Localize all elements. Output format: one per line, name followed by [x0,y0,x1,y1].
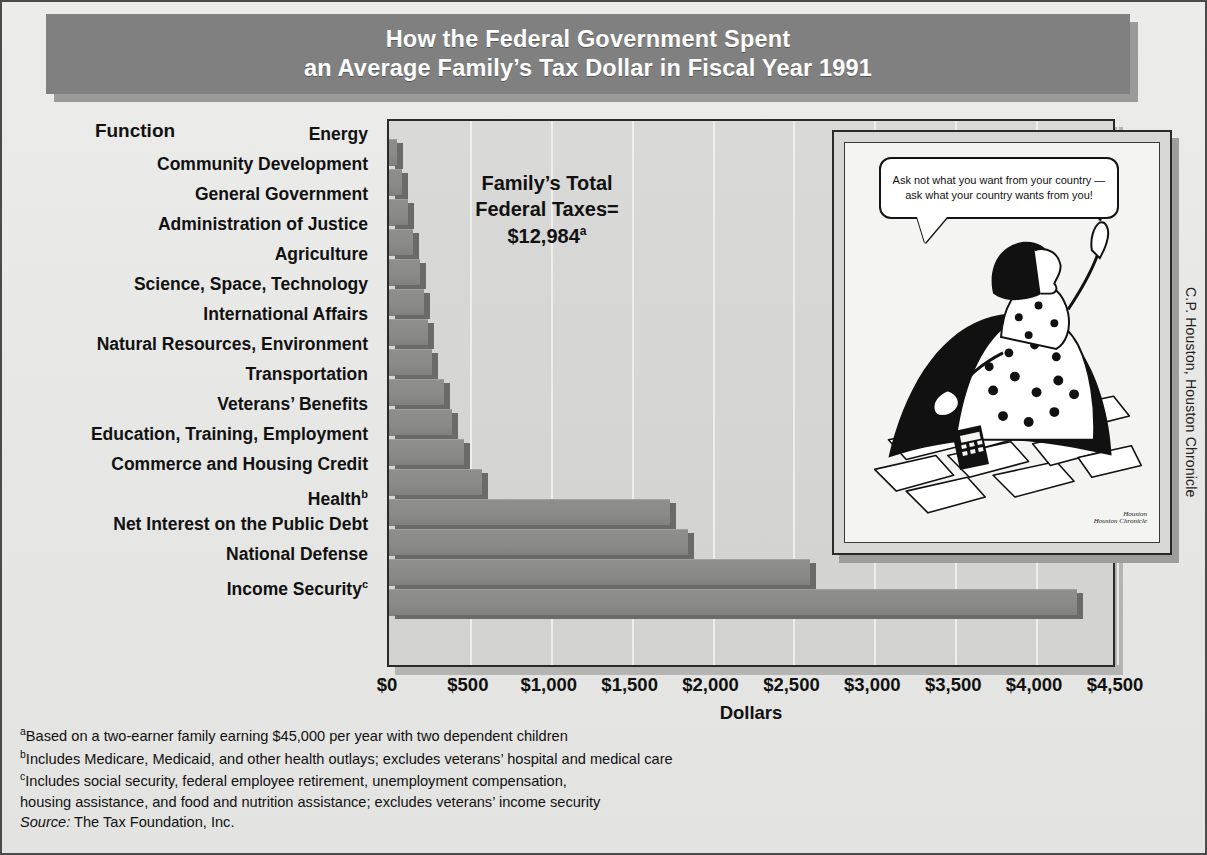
bar-depth-side [402,173,408,199]
category-label: Administration of Justice [2,209,380,239]
bar-row [389,169,410,199]
x-axis-tick: $2,000 [682,674,739,696]
bar-row [389,469,490,499]
bar [389,349,432,376]
category-label: Income Securityc [2,569,380,599]
bar-row [389,439,472,469]
footnote-marker: a [20,725,26,737]
bar-depth-side [482,473,488,499]
bar [389,169,402,196]
bar [389,589,1077,616]
bar-depth-side [464,443,470,469]
bar-row [389,199,416,229]
bar-depth-side [428,323,434,349]
cartoon-image: Ask not what you want from your country … [844,142,1160,543]
x-axis-tick: $0 [377,674,398,696]
bar-depth-bottom [395,555,694,559]
bar-row [389,499,678,529]
footnote: bIncludes Medicare, Medicaid, and other … [20,747,920,770]
bar-depth-bottom [395,585,816,589]
x-axis-tick: $3,000 [844,674,901,696]
category-label: General Government [2,179,380,209]
bar-depth-side [420,263,426,289]
footnote: cIncludes social security, federal emplo… [20,769,920,792]
bar [389,139,397,166]
bar-depth-bottom [395,495,488,499]
bar-row [389,139,405,169]
bar-depth-bottom [395,525,676,529]
bar [389,379,444,406]
bar-depth-side [397,143,403,169]
bar [389,469,482,496]
total-annotation-line-1: Family’s Total [449,170,645,196]
bar-depth-side [424,293,430,319]
cartoonist-signature: Houston Houston Chronicle [1094,511,1147,526]
category-footnote-marker: c [362,578,368,590]
speech-bubble-line-1: Ask not what you want from your country … [893,173,1106,188]
infographic-page: How the Federal Government Spent an Aver… [0,0,1207,855]
x-axis-tick-labels: $0$500$1,000$1,500$2,000$2,500$3,000$3,5… [342,674,1172,700]
bar [389,499,670,526]
title-line-2: an Average Family’s Tax Dollar in Fiscal… [304,54,872,83]
footnotes-block: aBased on a two-earner family earning $4… [20,724,920,833]
bar-depth-side [670,503,676,529]
total-annotation-line-2: Federal Taxes= [449,196,645,222]
bar-row [389,319,436,349]
category-label: Science, Space, Technology [2,269,380,299]
title-line-1: How the Federal Government Spent [304,25,872,54]
footnote-marker: c [20,770,25,782]
bar-depth-bottom [395,435,458,439]
bar-row [389,379,452,409]
category-footnote-marker: b [361,488,368,500]
category-label-column: EnergyCommunity DevelopmentGeneral Gover… [2,119,380,599]
bar-depth-side [432,353,438,379]
footnote-marker: b [20,748,26,760]
x-axis-label: Dollars [387,702,1115,724]
cartoon-credit: C.P. Houston, Houston Chronicle [1183,287,1199,498]
bar [389,289,424,316]
x-axis-tick: $2,500 [763,674,820,696]
source-label: Source: [20,814,70,830]
bar-depth-side [688,533,694,559]
bar-depth-bottom [395,405,450,409]
category-label: Commerce and Housing Credit [2,449,380,479]
bar-depth-bottom [395,615,1083,619]
category-label: National Defense [2,539,380,569]
total-annotation-value: $12,984a [449,223,645,249]
bar-row [389,349,440,379]
bar [389,199,408,226]
category-label: Transportation [2,359,380,389]
bar-depth-side [413,233,419,259]
total-taxes-annotation: Family’s Total Federal Taxes= $12,984a [449,170,645,249]
category-label: Agriculture [2,239,380,269]
source-line: Source: The Tax Foundation, Inc. [20,812,920,833]
x-axis-tick: $3,500 [925,674,982,696]
x-axis-tick: $1,500 [601,674,658,696]
bar-depth-side [444,383,450,409]
speech-bubble-line-2: ask what your country wants from you! [893,188,1106,203]
category-label: Veterans’ Benefits [2,389,380,419]
x-axis-tick: $1,000 [520,674,577,696]
category-label: Energy [2,119,380,149]
bar-row [389,289,432,319]
bar-depth-bottom [395,465,470,469]
speech-bubble: Ask not what you want from your country … [879,157,1119,219]
category-label: Net Interest on the Public Debt [2,509,380,539]
bar-depth-side [408,203,414,229]
bar-row [389,589,1085,619]
category-label: Education, Training, Employment [2,419,380,449]
bar-row [389,259,428,289]
bar-row [389,559,818,589]
footnote: housing assistance, and food and nutriti… [20,792,920,813]
bar-depth-side [452,413,458,439]
bar [389,529,688,556]
footnote: aBased on a two-earner family earning $4… [20,724,920,747]
x-axis-tick: $4,500 [1087,674,1144,696]
bar [389,409,452,436]
bar-row [389,229,421,259]
speech-bubble-tail [917,217,947,243]
bar [389,439,464,466]
x-axis-tick: $4,000 [1006,674,1063,696]
category-label: Healthb [2,479,380,509]
title-banner: How the Federal Government Spent an Aver… [46,14,1130,94]
